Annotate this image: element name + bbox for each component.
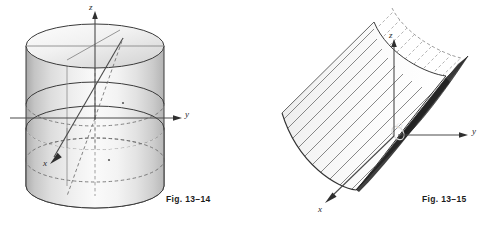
figure-panel-left: z y x Fig. 13–14	[0, 0, 246, 227]
origin-label: O	[396, 121, 403, 131]
y-axis-label: y	[471, 126, 476, 136]
parabolic-cylinder-diagram: O z y x	[246, 0, 493, 227]
figure-page: z y x Fig. 13–14	[0, 0, 493, 227]
z-axis-label: z	[88, 2, 93, 12]
x-axis-label: x	[42, 158, 47, 168]
figure-caption-left: Fig. 13–14	[166, 194, 211, 204]
figure-caption-right: Fig. 13–15	[422, 194, 467, 204]
figure-panel-right: O z y x Fig. 13–15	[246, 0, 493, 227]
x-axis-label: x	[317, 204, 322, 214]
y-axis-label: y	[184, 109, 189, 119]
cylinder-diagram: z y x	[0, 0, 246, 227]
z-axis-label: z	[388, 30, 393, 40]
